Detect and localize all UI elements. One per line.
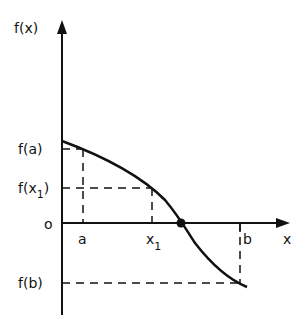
y-axis-arrow-icon bbox=[57, 20, 67, 34]
function-curve bbox=[62, 141, 247, 287]
b-label: b bbox=[243, 231, 252, 247]
origin-label: o bbox=[44, 216, 53, 232]
fx1-label: f(x1) bbox=[18, 180, 49, 201]
fa-label: f(a) bbox=[18, 141, 42, 157]
x1-label: x1 bbox=[146, 231, 161, 253]
bisection-diagram: f(x) x f(a) f(x1) o f(b) a x1 b bbox=[0, 0, 306, 332]
y-axis-label: f(x) bbox=[14, 20, 38, 36]
a-label: a bbox=[78, 231, 87, 247]
fb-label: f(b) bbox=[18, 275, 43, 291]
x-axis-label: x bbox=[283, 231, 291, 247]
root-point bbox=[177, 219, 186, 228]
x-axis-arrow-icon bbox=[276, 218, 290, 228]
